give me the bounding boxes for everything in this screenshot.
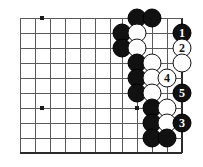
move-number: 1 xyxy=(179,27,185,39)
move-number: 2 xyxy=(179,42,185,54)
star-point-lower-left xyxy=(40,106,44,110)
move-number: 5 xyxy=(179,87,185,99)
move-number: 3 xyxy=(179,117,185,129)
star-point-upper-left xyxy=(40,16,44,20)
black-stone xyxy=(158,129,177,148)
black-stone xyxy=(143,9,162,28)
white-stone xyxy=(173,54,192,73)
move-stone-3: 3 xyxy=(173,114,192,133)
move-number: 4 xyxy=(164,72,170,84)
star-point-lower-right xyxy=(135,106,139,110)
go-diagram: 12453 xyxy=(0,0,203,167)
move-stone-5: 5 xyxy=(173,84,192,103)
move-stone-4: 4 xyxy=(158,69,177,88)
